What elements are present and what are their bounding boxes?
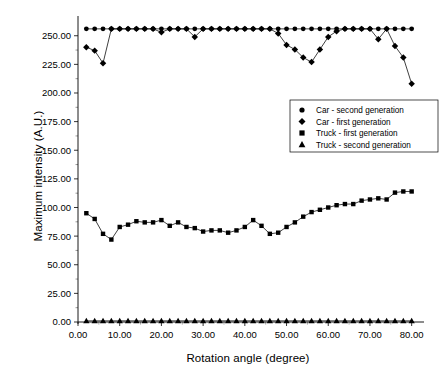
x-tick-label: 0.00 — [69, 329, 88, 340]
x-tick-label: 40.00 — [233, 329, 257, 340]
series-diamond — [83, 26, 415, 87]
legend-label: Truck - first generation — [316, 129, 398, 138]
series-circle — [84, 26, 414, 31]
y-axis-label: Maximum intensity (A.U.) — [32, 76, 44, 276]
legend-label: Car - first generation — [316, 118, 391, 127]
y-tick-label: 100.00 — [42, 202, 71, 213]
axis-lines — [78, 16, 424, 324]
y-tick-label: 200.00 — [42, 87, 71, 98]
x-tick-label: 20.00 — [150, 329, 174, 340]
y-tick-label: 225.00 — [42, 59, 71, 70]
x-axis-ticks: 0.0010.0020.0030.0040.0050.0060.0070.008… — [69, 322, 424, 340]
data-series-group — [83, 26, 415, 324]
y-tick-label: 50.00 — [47, 259, 71, 270]
x-tick-label: 30.00 — [191, 329, 215, 340]
chart-legend: Car - second generationCar - first gener… — [290, 100, 438, 152]
legend-item: Car - second generation — [299, 106, 404, 115]
legend-item: Truck - second generation — [299, 141, 412, 150]
x-tick-label: 70.00 — [358, 329, 382, 340]
y-tick-label: 75.00 — [47, 231, 71, 242]
y-axis-ticks: 0.0025.0050.0075.00100.00125.00150.00175… — [42, 30, 78, 327]
legend-label: Truck - second generation — [316, 141, 411, 150]
x-tick-label: 10.00 — [108, 329, 132, 340]
y-tick-label: 125.00 — [42, 173, 71, 184]
y-tick-label: 250.00 — [42, 30, 71, 41]
chart-figure: 0.0025.0050.0075.00100.00125.00150.00175… — [0, 0, 447, 373]
legend-label: Car - second generation — [316, 106, 404, 115]
x-axis-label: Rotation angle (degree) — [78, 352, 418, 364]
y-tick-label: 150.00 — [42, 145, 71, 156]
plot-area: 0.0025.0050.0075.00100.00125.00150.00175… — [0, 0, 447, 373]
x-tick-label: 80.00 — [400, 329, 424, 340]
series-square — [84, 189, 414, 241]
y-tick-label: 25.00 — [47, 288, 71, 299]
y-tick-label: 175.00 — [42, 116, 71, 127]
x-tick-label: 60.00 — [316, 329, 340, 340]
y-tick-label: 0.00 — [53, 316, 72, 327]
series-triangle — [83, 318, 415, 324]
x-tick-label: 50.00 — [275, 329, 299, 340]
